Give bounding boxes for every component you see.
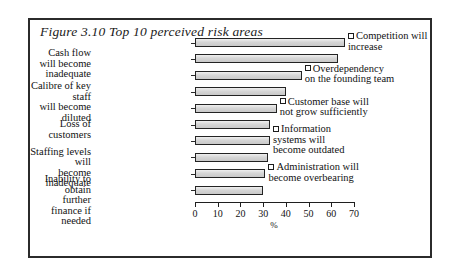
x-axis-tick-label: 0 — [193, 208, 198, 219]
square-marker-icon — [268, 164, 274, 170]
bar — [195, 120, 270, 129]
bar — [195, 136, 270, 145]
category-tick — [191, 174, 195, 175]
x-axis-tick-label: 70 — [349, 208, 359, 219]
x-axis-tick-label: 40 — [281, 208, 291, 219]
x-axis-line — [195, 202, 354, 203]
value-label: Overdependency on the founding team — [305, 64, 395, 85]
x-axis-tick — [240, 202, 241, 207]
bar-row — [195, 186, 263, 195]
x-axis-tick-label: 60 — [326, 208, 336, 219]
figure-box: Figure 3.10 Top 10 perceived risk areas … — [28, 18, 432, 258]
value-label: Information systems will become outdated — [273, 124, 344, 156]
x-axis-tick — [286, 202, 287, 207]
bar — [195, 153, 268, 162]
x-axis-tick — [331, 202, 332, 207]
value-label: Competition will increase — [348, 31, 427, 52]
category-label: Calibre of key staff will become diluted — [30, 81, 91, 123]
bar-row — [195, 136, 270, 145]
bar-row — [195, 71, 302, 80]
category-tick — [191, 43, 195, 44]
x-axis-tick — [309, 202, 310, 207]
x-axis-tick-label: 10 — [213, 208, 223, 219]
square-marker-icon — [280, 98, 286, 104]
bar-row — [195, 87, 286, 96]
category-tick — [191, 141, 195, 142]
category-label: Cash flow will become inadequate — [30, 48, 91, 80]
bar-row — [195, 38, 345, 47]
value-label: Administration will become overbearing — [268, 162, 359, 183]
x-axis-tick-label: 20 — [235, 208, 245, 219]
x-axis-tick — [195, 202, 196, 207]
x-axis-tick-label: 50 — [304, 208, 314, 219]
category-label: Loss of customers — [30, 119, 91, 140]
category-tick — [191, 59, 195, 60]
category-tick — [191, 157, 195, 158]
bar — [195, 104, 277, 113]
square-marker-icon — [348, 33, 354, 39]
category-tick — [191, 125, 195, 126]
square-marker-icon — [305, 65, 311, 71]
category-label: Inability to obtain further finance if n… — [30, 174, 91, 227]
x-axis-title: % — [270, 220, 278, 230]
bar — [195, 87, 286, 96]
bar-row — [195, 104, 277, 113]
bar-row — [195, 153, 268, 162]
bar-row — [195, 169, 265, 178]
category-tick — [191, 92, 195, 93]
bar — [195, 169, 265, 178]
bar-row — [195, 120, 270, 129]
bar — [195, 186, 263, 195]
category-tick — [191, 108, 195, 109]
x-axis-tick — [263, 202, 264, 207]
value-label: Customer base will not grow sufficiently — [280, 97, 369, 118]
x-axis-tick — [354, 202, 355, 207]
square-marker-icon — [273, 126, 279, 132]
bar — [195, 38, 345, 47]
category-tick — [191, 190, 195, 191]
bar-chart-plot: % Cash flow will become inadequateCalibr… — [30, 20, 430, 256]
bar — [195, 71, 302, 80]
x-axis-tick — [218, 202, 219, 207]
x-axis-tick-label: 30 — [258, 208, 268, 219]
category-tick — [191, 75, 195, 76]
